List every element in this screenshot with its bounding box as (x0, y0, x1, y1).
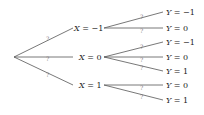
probability-label-x_0_y_1: ? (140, 64, 143, 71)
probability-label-x_0_y_0: ? (140, 56, 143, 63)
node-label-x_1_y_1: Y = 1 (166, 96, 188, 105)
probability-label-x_1_y_0: ? (140, 84, 143, 91)
probability-label-x_m1_y_m1: ? (140, 13, 143, 20)
edge-root-to-x_1 (14, 57, 73, 85)
probability-tree: ?X = −1?Y = −1?Y = 0?X = 0?Y = −1?Y = 0?… (0, 0, 204, 115)
edge-x_m1-to-x_m1_y_m1 (104, 12, 163, 28)
node-label-x_0_y_0: Y = 0 (166, 53, 188, 62)
node-label-x_m1: X = −1 (73, 24, 103, 33)
edge-x_1-to-x_1_y_1 (104, 85, 163, 100)
probability-label-x_1_y_1: ? (140, 93, 143, 100)
edge-root-to-x_m1 (14, 28, 73, 57)
node-label-x_1: X = 1 (78, 81, 102, 90)
node-label-x_m1_y_m1: Y = −1 (166, 8, 195, 17)
probability-label-x_0: ? (46, 55, 49, 62)
node-label-x_0: X = 0 (78, 53, 102, 62)
edge-x_0-to-x_0_y_1 (104, 57, 163, 71)
node-label-x_1_y_0: Y = 0 (166, 81, 188, 90)
edge-x_0-to-x_0_y_m1 (104, 42, 163, 57)
probability-label-x_0_y_m1: ? (140, 43, 143, 50)
probability-label-x_m1_y_0: ? (140, 27, 143, 34)
node-label-x_0_y_m1: Y = −1 (166, 38, 195, 47)
node-label-x_0_y_1: Y = 1 (166, 67, 188, 76)
node-label-x_m1_y_0: Y = 0 (166, 24, 188, 33)
probability-label-x_1: ? (46, 71, 49, 78)
probability-label-x_m1: ? (46, 35, 49, 42)
